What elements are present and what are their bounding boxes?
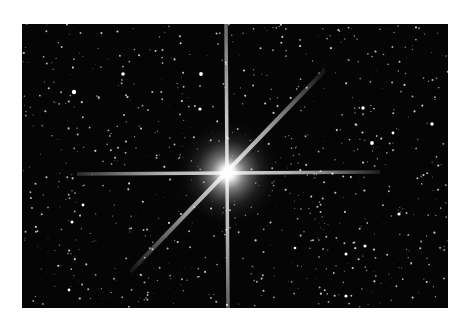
bright-star <box>82 204 85 207</box>
bright-star <box>294 247 297 250</box>
star-photo: bright star with diffraction spikes in a… <box>22 24 448 308</box>
bright-star <box>199 72 203 76</box>
bright-star <box>72 90 76 94</box>
main-star-core <box>223 168 233 178</box>
bright-star <box>361 106 364 109</box>
bright-star <box>345 253 348 256</box>
bright-star <box>121 72 125 76</box>
bright-star <box>430 122 433 125</box>
star-field <box>22 24 448 308</box>
bright-star <box>392 132 395 135</box>
bright-star <box>397 212 400 215</box>
bright-star <box>363 244 366 247</box>
bright-star <box>344 294 347 297</box>
bright-star <box>71 221 74 224</box>
bright-star <box>370 141 374 145</box>
bright-star <box>198 107 201 110</box>
bright-star <box>68 289 71 292</box>
